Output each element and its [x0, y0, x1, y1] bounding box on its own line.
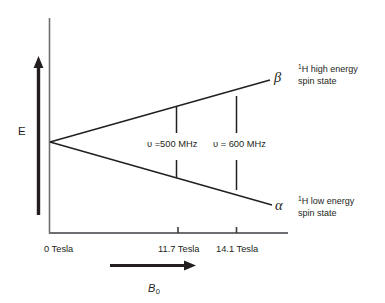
alpha-state-symbol: α	[275, 196, 283, 215]
y-axis-label: E	[18, 124, 26, 139]
plot-canvas	[0, 0, 385, 303]
alpha-energy-line	[50, 142, 272, 205]
x-axis-label: B0	[148, 281, 160, 296]
x-axis-label-subscript: 0	[156, 287, 160, 296]
transition-label-500mhz: υ =500 MHz	[147, 138, 197, 150]
alpha-description-line1: H low energy	[302, 196, 355, 206]
field-axis-arrow	[110, 260, 196, 270]
x-axis-label-base: B	[148, 282, 155, 294]
beta-state-symbol: β	[274, 68, 281, 87]
energy-level-diagram: E B0 β 1H high energyspin state α 1H low…	[0, 0, 385, 303]
alpha-description-line2: spin state	[298, 208, 337, 218]
x-tick-label-11-7-tesla: 11.7 Tesla	[158, 243, 200, 255]
beta-isotope-superscript: 1	[298, 63, 302, 70]
transition-label-600mhz: υ = 600 MHz	[213, 138, 266, 150]
beta-description-line1: H high energy	[302, 64, 358, 74]
x-tick-label-0-tesla: 0 Tesla	[44, 243, 73, 255]
alpha-state-description: 1H low energyspin state	[298, 196, 354, 220]
beta-description-line2: spin state	[298, 76, 337, 86]
x-tick-label-14-1-tesla: 14.1 Tesla	[216, 243, 258, 255]
beta-state-description: 1H high energyspin state	[298, 64, 358, 88]
energy-axis-arrow	[34, 56, 44, 215]
alpha-isotope-superscript: 1	[298, 195, 302, 202]
